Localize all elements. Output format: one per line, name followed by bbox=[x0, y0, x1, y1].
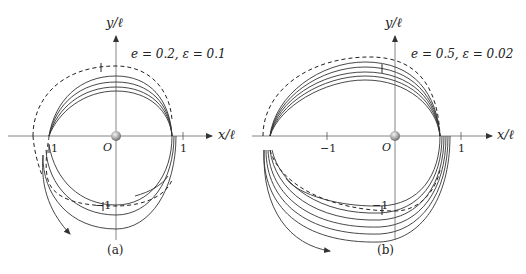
caption-b: (b) bbox=[377, 244, 394, 256]
tick-label-xneg-a: 1 bbox=[51, 143, 58, 154]
orbit-figure bbox=[0, 0, 526, 274]
tick-label-xm1-b: −1 bbox=[320, 143, 336, 154]
dashed-orbit-b bbox=[263, 57, 440, 136]
solid-orbits-b-bottom bbox=[264, 136, 450, 251]
x-axis-label-a: x/ℓ bbox=[218, 128, 235, 141]
x-axis-label-b: x/ℓ bbox=[497, 128, 514, 141]
y-axis-label-a: y/ℓ bbox=[106, 16, 123, 29]
tick-label-yneg-a: −1 bbox=[95, 200, 111, 211]
origin-label-a: O bbox=[103, 142, 112, 153]
params-b: e = 0.5, ε = 0.02 bbox=[411, 48, 513, 60]
tick-label-yneg-b: −1 bbox=[372, 200, 388, 211]
dashed-orbit-a-left bbox=[33, 136, 42, 175]
params-a: e = 0.2, ε = 0.1 bbox=[131, 48, 226, 60]
origin-label-b: O bbox=[382, 142, 391, 153]
solid-orbits-b-top bbox=[270, 62, 440, 136]
central-mass-a bbox=[111, 131, 121, 141]
tick-label-x1-b: 1 bbox=[458, 143, 465, 154]
central-mass-b bbox=[390, 131, 400, 141]
solid-orbits-a-top bbox=[49, 76, 172, 136]
tick-label-x1-a: 1 bbox=[180, 143, 187, 154]
y-axis-label-b: y/ℓ bbox=[385, 16, 402, 29]
caption-a: (a) bbox=[107, 244, 124, 256]
panel-b bbox=[252, 36, 492, 251]
